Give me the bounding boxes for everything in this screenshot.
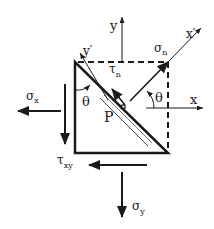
sigma-x-label: σx: [26, 89, 39, 105]
x-prime-axis: [168, 28, 201, 62]
sigma-n-label: σn: [154, 41, 167, 57]
sigma-y-label: σy: [132, 199, 145, 216]
x-axis-label: x: [190, 92, 198, 107]
x-prime-label: x′: [186, 27, 196, 41]
y-prime-label: y′: [82, 44, 93, 58]
y-axis-label: y: [109, 18, 118, 33]
point-p-label: P: [104, 109, 113, 125]
theta-left-label: θ: [82, 94, 90, 109]
theta-arc-right: [147, 91, 154, 108]
theta-right-label: θ: [155, 90, 163, 105]
tau-xy-label: τxy: [57, 153, 73, 170]
stress-element-diagram: y x x′ y′ σn τn P θ θ σx τxy σy: [0, 0, 214, 229]
tau-n-arrow: [112, 89, 125, 105]
theta-arc-left: [75, 85, 90, 90]
tau-n-label: τn: [109, 62, 121, 79]
y-prime-axis: [80, 53, 108, 100]
